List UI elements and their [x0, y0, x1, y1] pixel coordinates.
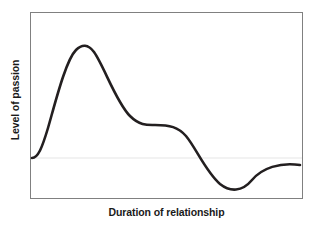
x-axis-label: Duration of relationship: [30, 206, 303, 218]
y-axis-label-text: Level of passion: [9, 59, 21, 140]
chart-svg: [30, 12, 303, 199]
plot-area: [30, 12, 303, 199]
chart-figure: Level of passion Duration of relationshi…: [0, 0, 319, 232]
y-axis-label: Level of passion: [0, 0, 30, 199]
